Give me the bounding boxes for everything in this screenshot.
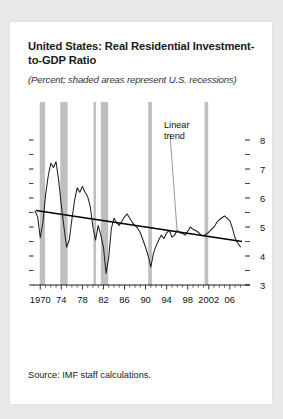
- y-axis-tick-label: 5: [260, 222, 265, 233]
- x-axis-tick-label: 86: [119, 294, 129, 305]
- annotation-leader-line: [170, 134, 177, 232]
- x-axis-tick-label: 74: [56, 294, 66, 305]
- y-axis-tick-label: 6: [260, 193, 265, 204]
- source-note: Source: IMF staff calculations.: [28, 370, 151, 380]
- recession-band: [60, 102, 67, 285]
- y-axis-labels: 345678: [246, 102, 272, 314]
- recession-band: [40, 102, 45, 285]
- recession-band: [93, 102, 96, 285]
- page-background: United States: Real Residential Investme…: [0, 0, 283, 419]
- x-axis-tick-label: 82: [98, 294, 108, 305]
- y-axis-tick-label: 8: [260, 135, 265, 146]
- x-axis-tick-label: 78: [77, 294, 87, 305]
- x-axis-tick-label: 98: [182, 294, 192, 305]
- annotation-line-2: trend: [164, 131, 190, 142]
- x-axis-tick-label: 94: [161, 294, 171, 305]
- x-axis-labels: 197074788286909498200206: [10, 294, 272, 310]
- figure-card: United States: Real Residential Investme…: [10, 22, 272, 404]
- chart-plot-area: [10, 102, 272, 314]
- x-axis-tick-label: 2002: [198, 294, 219, 305]
- y-axis-tick-label: 7: [260, 164, 265, 175]
- annotation-line-1: Linear: [164, 120, 190, 131]
- y-axis-tick-label: 3: [260, 280, 265, 291]
- chart-subtitle: (Percent; shaded areas represent U.S. re…: [28, 74, 264, 86]
- x-axis-tick-label: 90: [140, 294, 150, 305]
- linear-trend-annotation: Linear trend: [164, 120, 190, 142]
- x-axis: [33, 285, 250, 290]
- chart-title: United States: Real Residential Investme…: [28, 39, 260, 67]
- recession-band: [205, 102, 209, 285]
- x-axis-tick-label: 1970: [30, 294, 51, 305]
- y-axis-tick-label: 4: [260, 251, 265, 262]
- x-axis-tick-label: 06: [225, 294, 235, 305]
